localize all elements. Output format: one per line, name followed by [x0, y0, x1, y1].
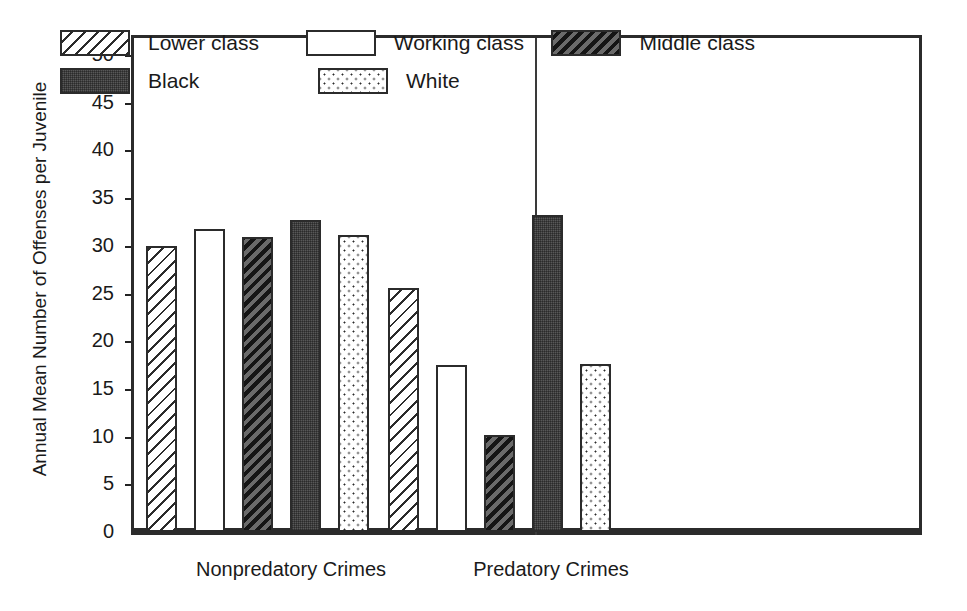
y-tick-label: 35 [62, 187, 114, 207]
plot-inner [134, 38, 919, 528]
legend-label: Black [148, 69, 199, 93]
bar [388, 288, 419, 532]
bar [242, 237, 273, 532]
plot-area [131, 35, 922, 535]
legend-label: Working class [394, 31, 524, 55]
x-axis-category-label: Predatory Crimes [406, 558, 696, 581]
bar [436, 365, 467, 532]
y-axis-title: Annual Mean Number of Offenses per Juven… [29, 29, 51, 529]
legend-item[interactable]: White [318, 68, 576, 94]
legend-item[interactable]: Middle class [551, 30, 780, 56]
y-tick-label: 5 [62, 473, 114, 493]
legend: Lower classWorking classMiddle classBlac… [60, 26, 780, 102]
y-tick-label: 15 [62, 378, 114, 398]
y-tick-label: 0 [62, 521, 114, 541]
legend-item[interactable]: Black [60, 68, 318, 94]
legend-swatch-icon [60, 30, 130, 56]
bar [338, 235, 369, 532]
legend-row: BlackWhite [60, 64, 780, 98]
legend-swatch-icon [60, 68, 130, 94]
y-tick-label: 40 [62, 139, 114, 159]
legend-label: White [406, 69, 460, 93]
y-tick-label: 25 [62, 283, 114, 303]
bar [194, 229, 225, 532]
y-tick-label: 10 [62, 426, 114, 446]
bar [532, 215, 563, 532]
legend-swatch-icon [551, 30, 621, 56]
bar [484, 435, 515, 532]
x-axis-category-label: Nonpredatory Crimes [146, 558, 436, 581]
legend-label: Middle class [639, 31, 755, 55]
legend-swatch-icon [306, 30, 376, 56]
legend-label: Lower class [148, 31, 259, 55]
bar [290, 220, 321, 532]
bar-chart-figure: Annual Mean Number of Offenses per Juven… [0, 0, 967, 611]
legend-item[interactable]: Working class [306, 30, 552, 56]
bar [580, 364, 611, 532]
legend-swatch-icon [318, 68, 388, 94]
y-tick-label: 30 [62, 235, 114, 255]
legend-row: Lower classWorking classMiddle class [60, 26, 780, 60]
bar [146, 246, 177, 532]
y-tick-label: 20 [62, 330, 114, 350]
legend-item[interactable]: Lower class [60, 30, 306, 56]
